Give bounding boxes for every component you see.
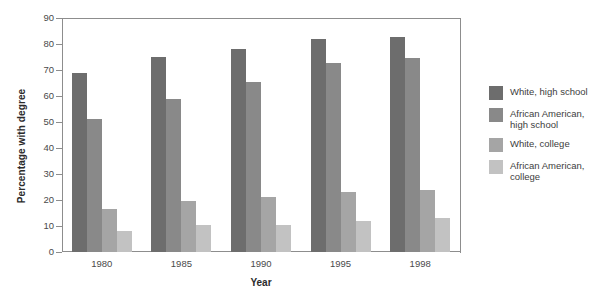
legend-item[interactable]: White, high school bbox=[489, 86, 614, 100]
x-axis-tick-label: 1990 bbox=[221, 258, 301, 269]
bar bbox=[117, 231, 132, 252]
bar bbox=[420, 190, 435, 252]
y-axis-tick bbox=[56, 70, 62, 71]
bar bbox=[390, 37, 405, 252]
bar-group bbox=[231, 18, 291, 252]
bar bbox=[72, 73, 87, 252]
legend-item[interactable]: African American, college bbox=[489, 160, 614, 182]
x-axis-tick-label: 1995 bbox=[301, 258, 381, 269]
bar bbox=[276, 225, 291, 252]
bar bbox=[356, 221, 371, 252]
y-axis-tick bbox=[56, 200, 62, 201]
bar-chart-figure: Percentage with degree 01020304050607080… bbox=[0, 0, 616, 303]
y-axis-tick bbox=[56, 252, 62, 253]
bar bbox=[181, 201, 196, 252]
y-axis-tick-label: 10 bbox=[6, 221, 54, 230]
legend-item-label: African American, college bbox=[510, 160, 584, 182]
y-axis-tick-label: 70 bbox=[6, 65, 54, 74]
chart-legend: White, high schoolAfrican American, high… bbox=[489, 86, 614, 190]
legend-swatch-icon bbox=[489, 86, 503, 100]
y-axis-tick bbox=[56, 44, 62, 45]
legend-swatch-icon bbox=[489, 160, 503, 174]
legend-swatch-icon bbox=[489, 138, 503, 152]
legend-item-label: White, high school bbox=[510, 86, 588, 97]
bar bbox=[261, 197, 276, 252]
y-axis-tick-label: 90 bbox=[6, 13, 54, 22]
legend-item-label: African American, high school bbox=[510, 108, 584, 130]
bar bbox=[166, 99, 181, 252]
x-axis-tick-label: 1985 bbox=[141, 258, 221, 269]
y-axis-tick bbox=[56, 18, 62, 19]
bar bbox=[341, 192, 356, 252]
bar bbox=[151, 57, 166, 252]
bar bbox=[87, 119, 102, 252]
bar-group bbox=[390, 18, 450, 252]
y-axis-tick bbox=[56, 148, 62, 149]
x-axis-title: Year bbox=[62, 277, 460, 288]
y-axis-tick bbox=[56, 174, 62, 175]
x-axis-tick-label: 1998 bbox=[380, 258, 460, 269]
y-tick-label-container: 0102030405060708090 bbox=[0, 0, 54, 303]
bar bbox=[246, 82, 261, 252]
y-axis-tick-label: 20 bbox=[6, 195, 54, 204]
legend-item[interactable]: African American, high school bbox=[489, 108, 614, 130]
y-axis-tick bbox=[56, 122, 62, 123]
bar bbox=[102, 209, 117, 252]
legend-swatch-icon bbox=[489, 108, 503, 122]
bar bbox=[405, 58, 420, 252]
bar-group bbox=[72, 18, 132, 252]
y-axis-tick-label: 80 bbox=[6, 39, 54, 48]
x-axis-tick-label: 1980 bbox=[62, 258, 142, 269]
bar-group bbox=[311, 18, 371, 252]
y-axis-tick bbox=[56, 96, 62, 97]
legend-item[interactable]: White, college bbox=[489, 138, 614, 152]
bar bbox=[196, 225, 211, 252]
bar bbox=[231, 49, 246, 252]
bar bbox=[311, 39, 326, 252]
y-axis-tick-label: 30 bbox=[6, 169, 54, 178]
plot-right-edge bbox=[460, 18, 461, 253]
legend-item-label: White, college bbox=[510, 138, 570, 149]
y-axis-tick-label: 60 bbox=[6, 91, 54, 100]
y-axis-tick-label: 40 bbox=[6, 143, 54, 152]
y-axis-tick-label: 50 bbox=[6, 117, 54, 126]
y-axis-tick bbox=[56, 226, 62, 227]
bar-group bbox=[151, 18, 211, 252]
y-axis-tick-label: 0 bbox=[6, 247, 54, 256]
bar bbox=[326, 63, 341, 252]
bar bbox=[435, 218, 450, 252]
